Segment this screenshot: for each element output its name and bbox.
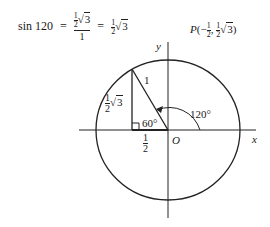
- comma: ,: [211, 23, 214, 35]
- point-name: P: [190, 23, 197, 35]
- angle-60-label: 60°: [142, 117, 157, 129]
- rhs-radicand: 3: [121, 19, 128, 32]
- origin-label: O: [172, 134, 180, 146]
- right-angle-marker: [132, 123, 139, 130]
- base-label: 12: [143, 133, 148, 154]
- height-label: 12√3: [105, 93, 123, 114]
- height-radicand: 3: [116, 95, 123, 108]
- point-p-label: P(−12, 12√3): [190, 22, 236, 39]
- angle-120-label: 120°: [190, 108, 211, 120]
- radicand: 3: [84, 12, 91, 25]
- equals-sign: =: [60, 19, 67, 33]
- hypotenuse-label: 1: [144, 74, 150, 86]
- base-num: 1: [143, 132, 148, 143]
- equals-sign-2: =: [97, 19, 104, 33]
- denominator: 1: [74, 32, 91, 42]
- sine-equation: sin 120 = 12√3 1 = 12√3: [18, 12, 128, 42]
- equation-lhs: sin 120: [18, 19, 53, 33]
- paren-close: ): [233, 23, 237, 35]
- y-axis-label: y: [156, 40, 161, 52]
- base-den: 2: [143, 143, 148, 154]
- equation-fraction: 12√3 1: [74, 12, 91, 42]
- x-axis-label: x: [252, 133, 257, 145]
